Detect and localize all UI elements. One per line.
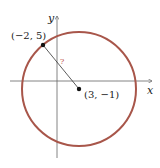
center-label: (3, −1)	[84, 89, 119, 100]
y-axis-label: y	[47, 12, 55, 25]
center-point	[77, 87, 81, 91]
point-on-circle	[41, 43, 45, 47]
diagram-canvas: x y (−2, 5) (3, −1) ?	[0, 0, 160, 168]
point-label: (−2, 5)	[11, 30, 46, 41]
radius-segment	[43, 45, 79, 89]
radius-label: ?	[60, 57, 64, 66]
x-axis-label: x	[147, 84, 154, 97]
